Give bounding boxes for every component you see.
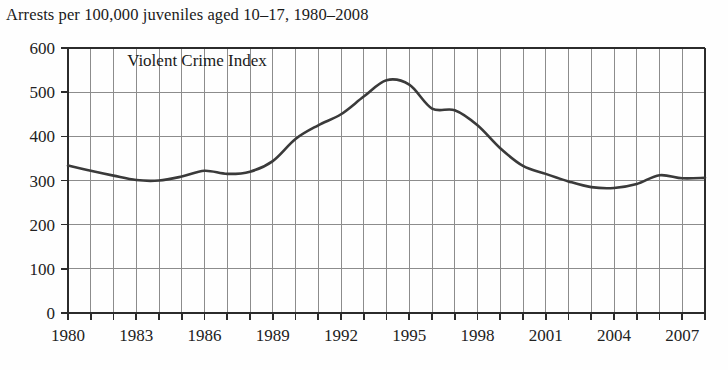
svg-text:300: 300 <box>30 172 56 191</box>
svg-text:2004: 2004 <box>597 326 632 345</box>
svg-text:1992: 1992 <box>324 326 358 345</box>
svg-text:0: 0 <box>47 304 56 323</box>
svg-text:100: 100 <box>30 260 56 279</box>
svg-text:2001: 2001 <box>529 326 563 345</box>
svg-text:1995: 1995 <box>392 326 426 345</box>
svg-text:1989: 1989 <box>256 326 290 345</box>
series-annotation-label: Violent Crime Index <box>127 51 267 70</box>
svg-text:1980: 1980 <box>51 326 85 345</box>
svg-text:400: 400 <box>30 127 56 146</box>
svg-text:1983: 1983 <box>119 326 153 345</box>
svg-text:600: 600 <box>30 39 56 58</box>
svg-text:1986: 1986 <box>188 326 222 345</box>
y-axis-tick-labels: 0100200300400500600 <box>30 39 56 323</box>
svg-text:2007: 2007 <box>665 326 700 345</box>
chart-figure: Arrests per 100,000 juveniles aged 10–17… <box>0 0 728 370</box>
svg-text:Violent Crime Index: Violent Crime Index <box>127 51 267 70</box>
axis-ticks <box>61 48 705 320</box>
svg-text:200: 200 <box>30 216 56 235</box>
svg-text:500: 500 <box>30 83 56 102</box>
line-chart: 0100200300400500600 19801983198619891992… <box>0 0 728 370</box>
svg-text:1998: 1998 <box>461 326 495 345</box>
x-axis-tick-labels: 1980198319861989199219951998200120042007 <box>51 326 700 345</box>
